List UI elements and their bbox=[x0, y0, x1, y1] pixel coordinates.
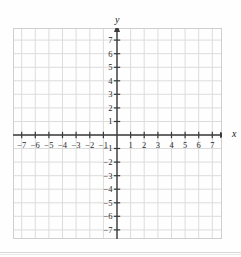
x-tick-7: 7 bbox=[204, 141, 220, 150]
page-bottom-rule-secondary bbox=[0, 254, 241, 255]
coordinate-plane: −7−6−5−4−3−2−112345677654321−1−2−3−4−5−6… bbox=[13, 28, 222, 239]
y-tick-2: 2 bbox=[97, 104, 113, 113]
y-tick-5: 5 bbox=[97, 63, 113, 72]
y-tick--7: −7 bbox=[97, 226, 113, 235]
y-tick-3: 3 bbox=[97, 90, 113, 99]
y-tick-1: 1 bbox=[97, 117, 113, 126]
y-tick--2: −2 bbox=[97, 158, 113, 167]
page-bottom-rule bbox=[0, 252, 241, 253]
y-tick--3: −3 bbox=[97, 172, 113, 181]
y-tick--5: −5 bbox=[97, 199, 113, 208]
y-tick--4: −4 bbox=[97, 185, 113, 194]
x-axis-label: x bbox=[232, 129, 236, 139]
y-tick--1: −1 bbox=[97, 144, 113, 153]
y-tick--6: −6 bbox=[97, 212, 113, 221]
y-axis-arrow bbox=[114, 28, 120, 32]
y-tick-4: 4 bbox=[97, 77, 113, 86]
y-tick-7: 7 bbox=[97, 36, 113, 45]
x-axis-arrow bbox=[220, 132, 222, 138]
y-axis-label: y bbox=[115, 15, 119, 25]
axes bbox=[13, 28, 222, 239]
figure-canvas: −7−6−5−4−3−2−112345677654321−1−2−3−4−5−6… bbox=[0, 0, 241, 257]
y-tick-6: 6 bbox=[97, 50, 113, 59]
